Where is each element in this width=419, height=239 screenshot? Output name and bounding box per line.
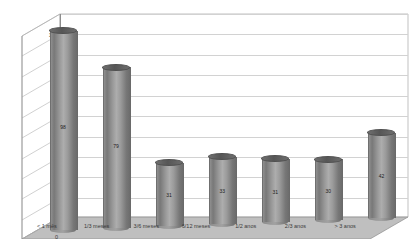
x-axis-label: 1/2 anos <box>218 223 274 230</box>
bar-value-label: 42 <box>368 173 394 179</box>
y-tick-0: 0 <box>0 234 58 239</box>
x-axis-label: 2/3 anos <box>267 223 323 230</box>
bar-4: 33 <box>209 157 235 224</box>
bar-value-label: 31 <box>156 192 182 198</box>
x-axis-label: < 1 mês <box>19 223 75 230</box>
bar-value-label: 31 <box>262 189 288 195</box>
bar-5: 31 <box>262 159 288 222</box>
x-axis-label: 3/6 meses <box>118 223 174 230</box>
x-axis-label: > 3 anos <box>317 223 373 230</box>
bar-top-ellipse <box>314 156 342 163</box>
gridline-90 <box>60 34 408 35</box>
bar-7: 42 <box>368 133 394 218</box>
bar-value-label: 33 <box>209 188 235 194</box>
bar-value-label: 30 <box>315 188 341 194</box>
x-axis-label: 6/12 meses <box>168 223 224 230</box>
bar-value-label: 98 <box>50 124 76 130</box>
bar-chart: 100 90 80 70 60 50 40 30 20 10 0 9879313… <box>0 0 419 239</box>
bar-top-ellipse <box>102 64 130 71</box>
y-tick-label: 0 <box>32 234 58 239</box>
gridline-80 <box>60 55 408 56</box>
bar-6: 30 <box>315 159 341 220</box>
bar-2: 79 <box>103 67 129 227</box>
bar-1: 98 <box>50 31 76 230</box>
bar-3: 31 <box>156 163 182 226</box>
bar-value-label: 79 <box>103 143 129 149</box>
gridline-100 <box>60 14 408 15</box>
x-axis-label: 1/3 meses <box>69 223 125 230</box>
